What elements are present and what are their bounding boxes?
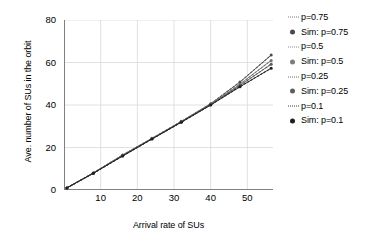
legend-item[interactable]: Sim: p=0.75 <box>288 25 368 40</box>
data-point-marker <box>270 63 273 66</box>
dotted-line-icon <box>288 71 301 83</box>
chart-container: Ave. number of SUs in the orbit 02040608… <box>0 0 368 245</box>
y-axis-tick-label: 20 <box>30 143 56 153</box>
data-point-marker <box>65 186 68 189</box>
legend-item-label: Sim: p=0.75 <box>301 27 348 38</box>
data-point-marker <box>239 85 242 88</box>
legend-item[interactable]: p=0.25 <box>288 69 368 84</box>
data-point-marker <box>270 54 273 57</box>
legend-item[interactable]: p=0.75 <box>288 10 368 25</box>
legend-item[interactable]: p=0.1 <box>288 99 368 114</box>
y-axis-tick-label: 60 <box>30 58 56 68</box>
legend-item-label: Sim: p=0.1 <box>301 115 343 126</box>
series-line-p-0-5 <box>67 60 271 188</box>
x-axis-tick-label: 10 <box>86 192 116 203</box>
legend-item-label: p=0.25 <box>301 71 328 82</box>
x-axis-title: Arrival rate of SUs <box>64 220 273 230</box>
data-point-marker <box>121 155 124 158</box>
data-point-marker <box>270 67 273 70</box>
y-axis-tick-labels: 020406080 <box>30 20 60 190</box>
y-axis-tick-label: 0 <box>30 185 56 195</box>
dotted-line-icon <box>288 41 301 53</box>
dotted-line-icon <box>288 11 301 23</box>
data-point-marker <box>151 138 154 141</box>
series-line-p-0-75 <box>67 55 271 188</box>
filled-circle-icon <box>288 56 301 68</box>
legend-item-label: p=0.1 <box>301 101 323 112</box>
data-point-marker <box>270 59 273 62</box>
y-axis-tick-label: 80 <box>30 15 56 25</box>
plot-area <box>64 20 273 190</box>
legend-item-label: p=0.5 <box>301 41 323 52</box>
legend-item[interactable]: p=0.5 <box>288 40 368 55</box>
series-line-sim-p-0-5 <box>67 60 271 188</box>
data-point-marker <box>209 104 212 107</box>
legend-item[interactable]: Sim: p=0.1 <box>288 114 368 129</box>
data-point-marker <box>92 172 95 175</box>
x-axis-tick-labels: 1020304050 <box>64 192 273 208</box>
x-axis-tick-label: 30 <box>159 192 189 203</box>
legend-item[interactable]: Sim: p=0.25 <box>288 84 368 99</box>
legend-item-label: Sim: p=0.5 <box>301 56 343 67</box>
dotted-line-icon <box>288 100 301 112</box>
legend-item-label: Sim: p=0.25 <box>301 86 348 97</box>
chart-legend: p=0.75Sim: p=0.75p=0.5Sim: p=0.5p=0.25Si… <box>288 10 368 128</box>
filled-circle-icon <box>288 26 301 38</box>
legend-item-label: p=0.75 <box>301 12 328 23</box>
series-line-sim-p-0-75 <box>67 55 271 188</box>
x-axis-tick-label: 20 <box>122 192 152 203</box>
x-axis-tick-label: 50 <box>232 192 262 203</box>
plot-svg <box>64 20 273 190</box>
x-axis-tick-label: 40 <box>196 192 226 203</box>
data-point-marker <box>180 121 183 124</box>
legend-item[interactable]: Sim: p=0.5 <box>288 54 368 69</box>
filled-circle-icon <box>288 85 301 97</box>
filled-circle-icon <box>288 115 301 127</box>
y-axis-tick-label: 40 <box>30 100 56 110</box>
